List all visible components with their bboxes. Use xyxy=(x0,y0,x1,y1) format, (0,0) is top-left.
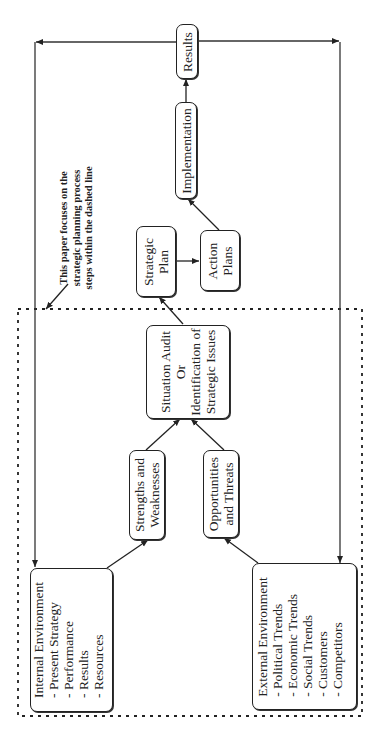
list-item: - Competitors xyxy=(330,577,345,697)
strengths-weaknesses-node: Strengths and Weaknesses xyxy=(129,450,165,540)
label-line: Situation Audit xyxy=(158,328,173,415)
strategic-plan-node: Strategic Plan xyxy=(136,226,176,297)
label-line: and Threats xyxy=(221,457,236,531)
label-line: Weaknesses xyxy=(147,458,162,532)
external-environment-title: External Environment xyxy=(255,577,270,697)
list-item: - Economic Trends xyxy=(285,577,300,697)
internal-environment-title: Internal Environment xyxy=(31,582,46,698)
list-item: - Resources xyxy=(91,582,106,698)
situation-audit-label: Situation Audit Or Identification of Str… xyxy=(158,328,218,415)
list-item: - Present Strategy xyxy=(46,582,61,698)
external-environment-label: External Environment - Political Trends … xyxy=(255,577,345,697)
strengths-weaknesses-label: Strengths and Weaknesses xyxy=(132,458,162,532)
label-line: Plan xyxy=(156,238,171,286)
action-plans-label: Action Plans xyxy=(205,242,235,279)
list-item: - Performance xyxy=(61,582,76,698)
label-line: Strengths and xyxy=(132,458,147,532)
note-line: This paper focuses on the xyxy=(58,166,71,289)
label-line: Plans xyxy=(220,242,235,279)
opportunities-threats-node: Opportunities and Threats xyxy=(203,450,239,538)
results-node: Results xyxy=(176,24,198,79)
list-item: - Customers xyxy=(315,577,330,697)
label-line: Action xyxy=(205,242,220,279)
label-line: Identification of xyxy=(188,328,203,415)
label-line: Opportunities xyxy=(206,457,221,531)
label-line: Strategic Issues xyxy=(203,328,218,415)
focus-note: This paper focuses on the strategic plan… xyxy=(58,166,96,289)
opportunities-threats-label: Opportunities and Threats xyxy=(206,457,236,531)
label-line: Strategic xyxy=(141,238,156,286)
external-environment-node: External Environment - Political Trends … xyxy=(252,563,357,710)
list-item: - Results xyxy=(76,582,91,698)
note-line: steps within the dashed line xyxy=(83,166,96,289)
list-item: - Political Trends xyxy=(270,577,285,697)
implementation-label: Implementation xyxy=(179,108,194,193)
results-label: Results xyxy=(180,32,195,72)
strategic-plan-label: Strategic Plan xyxy=(141,238,171,286)
internal-environment-node: Internal Environment - Present Strategy … xyxy=(30,568,113,712)
action-plans-node: Action Plans xyxy=(200,230,240,291)
label-line: Or xyxy=(173,328,188,415)
implementation-node: Implementation xyxy=(175,102,197,199)
list-item: - Social Trends xyxy=(300,577,315,697)
internal-environment-label: Internal Environment - Present Strategy … xyxy=(31,582,106,698)
note-line: strategic planning process xyxy=(71,166,84,289)
situation-audit-node: Situation Audit Or Identification of Str… xyxy=(146,325,230,419)
